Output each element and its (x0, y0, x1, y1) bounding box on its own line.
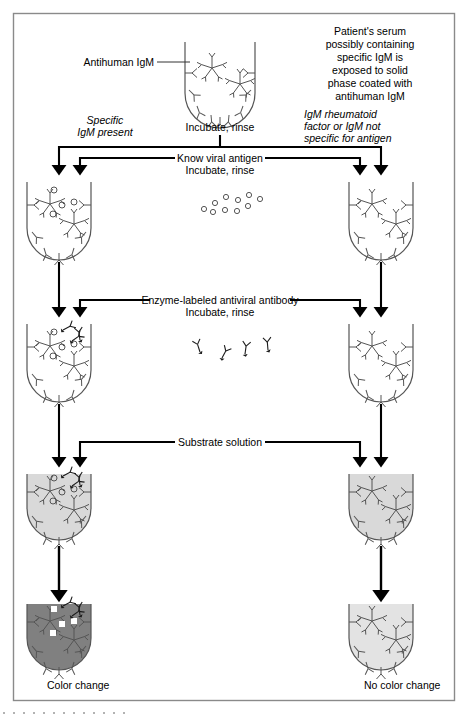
well-stage4-right (349, 474, 413, 549)
patient-serum-line-2: possibly containing (326, 38, 415, 50)
label-result-negative: No color change (364, 679, 441, 691)
label-igm-rheumatoid: IgM rheumatoid factor or IgM not specifi… (304, 108, 392, 144)
free-enzyme-antibody-group (192, 337, 272, 362)
label-specific-igm-present: Specific IgM present (77, 114, 134, 138)
patient-serum-line-5: phase coated with (328, 77, 413, 89)
label-patient-serum: Patient's serum possibly containing spec… (326, 25, 415, 102)
step-antigen-line-2: Incubate, rinse (186, 164, 255, 176)
well-stage1-top (185, 42, 255, 129)
label-incubate-rinse-top: Incubate, rinse (186, 121, 255, 133)
patient-serum-line-4: exposed to solid (332, 64, 408, 76)
well-stage2-right (349, 182, 413, 265)
label-antihuman-igm: Antihuman IgM (83, 56, 154, 68)
rheumatoid-line-2: factor or IgM not (304, 120, 382, 132)
label-result-positive: Color change (47, 679, 110, 691)
bottom-dotted-rule (3, 712, 125, 714)
well-stage2-left (27, 182, 91, 265)
patient-serum-line-1: Patient's serum (334, 25, 406, 37)
label-step-substrate: Substrate solution (178, 436, 262, 448)
well-stage3-right (349, 324, 413, 407)
patient-serum-line-3: specific IgM is (337, 51, 403, 63)
specific-igm-line-2: IgM present (77, 126, 134, 138)
step-enzyme-line-2: Incubate, rinse (186, 306, 255, 318)
well-stage4-left (27, 467, 91, 549)
specific-igm-line-1: Specific (87, 114, 125, 126)
patient-serum-line-6: antihuman IgM (335, 90, 404, 102)
step-antigen-line-1: Know viral antigen (177, 152, 263, 164)
rheumatoid-line-1: IgM rheumatoid (304, 108, 378, 120)
label-step-antigen: Know viral antigen Incubate, rinse (177, 152, 263, 176)
elisa-flow-diagram: Antihuman IgM Patient's serum possibly c… (0, 0, 470, 724)
well-result-positive (27, 597, 91, 679)
free-viral-antigen-group (201, 192, 262, 214)
well-result-negative (349, 604, 413, 679)
stage4-to-result-arrows (59, 546, 381, 596)
label-step-enzyme: Enzyme-labeled antiviral antibody Incuba… (141, 294, 299, 318)
stage3-to-stage4-arrows (59, 404, 381, 462)
well-stage3-left (27, 321, 91, 407)
step-enzyme-line-1: Enzyme-labeled antiviral antibody (141, 294, 299, 306)
figure-border (14, 14, 455, 701)
rheumatoid-line-3: specific for antigen (304, 132, 392, 144)
